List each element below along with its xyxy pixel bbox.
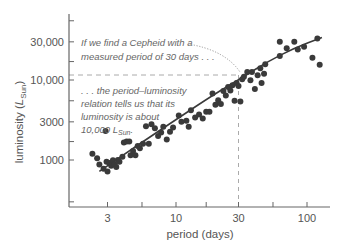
x-tick-label: 30 — [232, 212, 244, 224]
annotation-lum-line-3: luminosity is about — [81, 111, 160, 122]
annotation-period-line-1: If we find a Cepheid with a — [81, 37, 192, 48]
data-point — [119, 154, 125, 160]
data-point — [247, 77, 253, 83]
data-point — [277, 53, 283, 59]
data-point — [255, 72, 261, 78]
data-point — [291, 39, 297, 45]
data-point — [206, 109, 212, 115]
data-point — [232, 98, 238, 104]
data-point — [152, 125, 158, 131]
data-point — [186, 124, 192, 130]
data-point — [237, 98, 243, 104]
y-axis-title: luminosity (LSun) — [13, 81, 28, 164]
x-tick-label: 3 — [104, 212, 110, 224]
data-point — [261, 71, 267, 77]
data-point — [249, 69, 255, 75]
data-point — [132, 152, 138, 158]
annotation-lum-line-4: 10,000 LSun. — [81, 124, 133, 136]
data-point — [309, 55, 315, 61]
y-tick-label: 30,000 — [30, 36, 64, 48]
data-point — [140, 141, 146, 147]
data-point — [160, 124, 166, 130]
data-point — [94, 155, 100, 161]
x-axis-title: period (days) — [166, 228, 233, 240]
data-point — [183, 118, 189, 124]
annotation-period: If we find a Cepheid with a measured per… — [81, 37, 240, 72]
data-point — [170, 124, 176, 130]
data-point — [277, 39, 283, 45]
data-point — [210, 90, 216, 96]
data-point — [176, 112, 182, 118]
data-point — [236, 83, 242, 89]
data-point — [257, 65, 263, 71]
data-point — [314, 36, 320, 42]
data-point — [218, 101, 224, 107]
data-point — [200, 116, 206, 122]
data-point — [252, 86, 258, 92]
y-tick-label: 3000 — [40, 116, 64, 128]
annotation-period-line-2: measured period of 30 days . . . — [81, 51, 215, 62]
annotation-lum-line-2: relation tells us that its — [81, 98, 175, 109]
data-point — [223, 93, 229, 99]
data-point — [188, 107, 194, 113]
data-point — [113, 164, 119, 170]
x-tick-label: 10 — [170, 212, 182, 224]
data-point — [284, 45, 290, 51]
y-tick-label: 1000 — [40, 154, 64, 166]
data-point — [143, 123, 149, 129]
data-point — [227, 87, 233, 93]
y-tick-label: 10,000 — [30, 74, 64, 86]
data-point — [158, 130, 164, 136]
data-point — [295, 47, 301, 53]
data-point — [178, 119, 184, 125]
data-point — [262, 61, 268, 67]
annotation-lum-line-1: . . . the period–luminosity — [81, 85, 188, 96]
data-point — [105, 168, 111, 174]
data-point — [317, 62, 323, 68]
period-luminosity-chart: 310301001000300010,00030,000 period (day… — [0, 0, 340, 250]
data-point — [164, 137, 170, 143]
data-point — [126, 139, 132, 145]
data-point — [301, 44, 307, 50]
x-tick-label: 100 — [298, 212, 316, 224]
data-point — [116, 159, 122, 165]
data-point — [89, 151, 95, 157]
data-point — [259, 80, 265, 86]
data-point — [146, 141, 152, 147]
